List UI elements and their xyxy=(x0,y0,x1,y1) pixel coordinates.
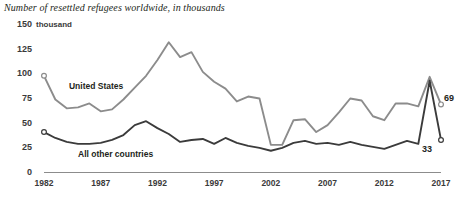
start-point-marker-all-other-countries xyxy=(42,130,47,135)
x-axis-tick-2007: 2007 xyxy=(308,178,348,188)
x-axis-tick-1997: 1997 xyxy=(194,178,234,188)
y-axis-tick-25: 25 xyxy=(6,142,32,152)
series-line-united-states xyxy=(44,42,441,145)
y-axis-unit-label: thousand xyxy=(36,20,72,29)
start-point-marker-united-states xyxy=(42,73,47,78)
y-axis-tick-50: 50 xyxy=(6,118,32,128)
end-value-label-united-states: 69 xyxy=(444,93,454,103)
series-label-united-states: United States xyxy=(69,81,123,91)
series-line-all-other-countries xyxy=(44,81,441,151)
end-point-marker-all-other-countries xyxy=(439,138,444,143)
x-axis-tick-2002: 2002 xyxy=(251,178,291,188)
x-axis-tick-1987: 1987 xyxy=(81,178,121,188)
end-value-label-all-other-countries: 33 xyxy=(422,144,432,154)
x-axis-tick-2017: 2017 xyxy=(421,178,459,188)
y-axis-tick-75: 75 xyxy=(6,93,32,103)
series-label-all-other-countries: All other countries xyxy=(78,149,153,159)
x-axis-tick-1982: 1982 xyxy=(24,178,64,188)
y-axis-tick-0: 0 xyxy=(6,167,32,177)
end-point-marker-united-states xyxy=(439,102,444,107)
y-axis-tick-100: 100 xyxy=(6,68,32,78)
x-axis-tick-1992: 1992 xyxy=(137,178,177,188)
y-axis-tick-125: 125 xyxy=(6,44,32,54)
x-axis-tick-2012: 2012 xyxy=(364,178,404,188)
y-axis-tick-150: 150 xyxy=(6,19,32,29)
